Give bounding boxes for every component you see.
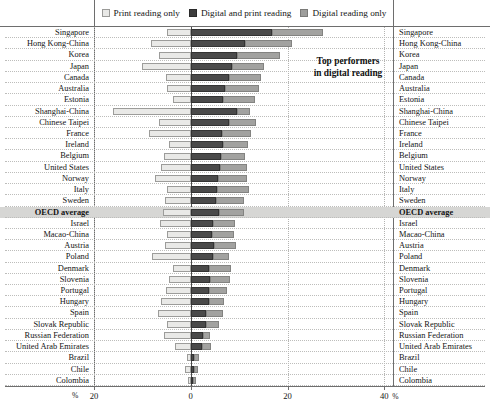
bar-segment-print-only[interactable] bbox=[149, 130, 191, 137]
bar-segment-digital-only[interactable] bbox=[194, 366, 198, 373]
bar-segment-digital-and-print[interactable] bbox=[191, 74, 229, 81]
chart-row[interactable]: IrelandIreland bbox=[0, 139, 490, 150]
bar-segment-print-only[interactable] bbox=[175, 343, 190, 350]
bar-segment-print-only[interactable] bbox=[161, 298, 191, 305]
bar-segment-digital-only[interactable] bbox=[232, 63, 263, 70]
bar-segment-print-only[interactable] bbox=[163, 209, 191, 216]
bar-segment-digital-only[interactable] bbox=[237, 108, 250, 115]
chart-row[interactable]: ChileChile bbox=[0, 364, 490, 375]
bar-segment-digital-only[interactable] bbox=[217, 186, 249, 193]
bar-segment-print-only[interactable] bbox=[165, 242, 191, 249]
bar-segment-digital-only[interactable] bbox=[206, 310, 222, 317]
chart-row[interactable]: AustraliaAustralia bbox=[0, 83, 490, 94]
chart-row[interactable]: United Arab EmiratesUnited Arab Emirates bbox=[0, 341, 490, 352]
bar-segment-print-only[interactable] bbox=[151, 40, 191, 47]
bar-segment-digital-and-print[interactable] bbox=[191, 332, 204, 339]
bar-segment-digital-and-print[interactable] bbox=[191, 186, 217, 193]
bar-segment-digital-and-print[interactable] bbox=[191, 52, 237, 59]
bar-segment-print-only[interactable] bbox=[161, 164, 191, 171]
chart-row[interactable]: IsraelIsrael bbox=[0, 218, 490, 229]
bar-segment-digital-only[interactable] bbox=[203, 332, 210, 339]
bar-segment-digital-only[interactable] bbox=[209, 287, 226, 294]
chart-row[interactable]: NorwayNorway bbox=[0, 173, 490, 184]
chart-row[interactable]: BrazilBrazil bbox=[0, 352, 490, 363]
bar-segment-print-only[interactable] bbox=[167, 321, 191, 328]
bar-segment-digital-only[interactable] bbox=[216, 197, 244, 204]
chart-row[interactable]: CanadaCanada bbox=[0, 72, 490, 83]
bar-segment-digital-only[interactable] bbox=[210, 276, 230, 283]
bar-segment-digital-only[interactable] bbox=[193, 377, 195, 384]
chart-row[interactable]: Macao-ChinaMacao-China bbox=[0, 229, 490, 240]
chart-row[interactable]: PortugalPortugal bbox=[0, 285, 490, 296]
bar-segment-digital-only[interactable] bbox=[225, 85, 260, 92]
bar-segment-digital-only[interactable] bbox=[222, 130, 251, 137]
bar-segment-digital-and-print[interactable] bbox=[191, 153, 221, 160]
bar-segment-print-only[interactable] bbox=[159, 119, 191, 126]
bar-segment-digital-only[interactable] bbox=[206, 321, 219, 328]
chart-row[interactable]: OECD averageOECD average bbox=[0, 207, 490, 218]
bar-segment-digital-and-print[interactable] bbox=[191, 265, 209, 272]
bar-segment-digital-and-print[interactable] bbox=[191, 231, 212, 238]
bar-segment-digital-and-print[interactable] bbox=[191, 40, 245, 47]
bar-segment-digital-and-print[interactable] bbox=[191, 141, 223, 148]
chart-row[interactable]: SpainSpain bbox=[0, 307, 490, 318]
bar-segment-digital-only[interactable] bbox=[209, 298, 224, 305]
bar-segment-print-only[interactable] bbox=[166, 74, 191, 81]
chart-row[interactable]: Shanghai-ChinaShanghai-China bbox=[0, 106, 490, 117]
chart-row[interactable]: Slovak RepublicSlovak Republic bbox=[0, 319, 490, 330]
bar-segment-digital-and-print[interactable] bbox=[191, 130, 222, 137]
chart-row[interactable]: Russian FederationRussian Federation bbox=[0, 330, 490, 341]
bar-segment-digital-only[interactable] bbox=[223, 141, 248, 148]
bar-segment-print-only[interactable] bbox=[155, 175, 191, 182]
chart-row[interactable]: DenmarkDenmark bbox=[0, 263, 490, 274]
bar-segment-digital-only[interactable] bbox=[272, 29, 323, 36]
bar-segment-digital-and-print[interactable] bbox=[191, 164, 220, 171]
chart-row[interactable]: ColombiaColombia bbox=[0, 375, 490, 386]
chart-row[interactable]: ItalyItaly bbox=[0, 184, 490, 195]
bar-segment-digital-only[interactable] bbox=[220, 164, 247, 171]
chart-row[interactable]: United StatesUnited States bbox=[0, 162, 490, 173]
chart-row[interactable]: HungaryHungary bbox=[0, 296, 490, 307]
bar-segment-digital-only[interactable] bbox=[209, 265, 231, 272]
chart-row[interactable]: Chinese TaipeiChinese Taipei bbox=[0, 117, 490, 128]
chart-row[interactable]: FranceFrance bbox=[0, 128, 490, 139]
bar-segment-digital-only[interactable] bbox=[214, 242, 236, 249]
chart-row[interactable]: EstoniaEstonia bbox=[0, 94, 490, 105]
bar-segment-digital-and-print[interactable] bbox=[191, 96, 223, 103]
bar-segment-digital-only[interactable] bbox=[229, 74, 262, 81]
bar-segment-print-only[interactable] bbox=[165, 197, 191, 204]
bar-segment-print-only[interactable] bbox=[173, 96, 190, 103]
bar-segment-print-only[interactable] bbox=[167, 186, 191, 193]
bar-segment-digital-only[interactable] bbox=[237, 52, 281, 59]
bar-segment-digital-only[interactable] bbox=[229, 119, 255, 126]
bar-segment-digital-and-print[interactable] bbox=[191, 63, 233, 70]
bar-segment-print-only[interactable] bbox=[164, 153, 191, 160]
bar-segment-digital-only[interactable] bbox=[221, 153, 245, 160]
bar-segment-digital-and-print[interactable] bbox=[191, 197, 216, 204]
chart-row[interactable]: JapanJapan bbox=[0, 61, 490, 72]
bar-segment-digital-only[interactable] bbox=[213, 220, 235, 227]
bar-segment-print-only[interactable] bbox=[167, 231, 191, 238]
bar-segment-digital-and-print[interactable] bbox=[191, 310, 206, 317]
bar-segment-print-only[interactable] bbox=[152, 253, 191, 260]
chart-row[interactable]: KoreaKorea bbox=[0, 49, 490, 60]
bar-segment-print-only[interactable] bbox=[159, 52, 190, 59]
bar-segment-digital-and-print[interactable] bbox=[191, 175, 218, 182]
bar-segment-print-only[interactable] bbox=[158, 310, 191, 317]
bar-segment-digital-only[interactable] bbox=[213, 253, 229, 260]
bar-segment-digital-and-print[interactable] bbox=[191, 298, 209, 305]
bar-segment-digital-and-print[interactable] bbox=[191, 242, 214, 249]
bar-segment-print-only[interactable] bbox=[173, 265, 190, 272]
bar-segment-digital-and-print[interactable] bbox=[191, 209, 219, 216]
bar-segment-print-only[interactable] bbox=[160, 220, 191, 227]
chart-row[interactable]: BelgiumBelgium bbox=[0, 150, 490, 161]
chart-row[interactable]: PolandPoland bbox=[0, 251, 490, 262]
bar-segment-print-only[interactable] bbox=[167, 29, 191, 36]
bar-segment-digital-and-print[interactable] bbox=[191, 220, 213, 227]
bar-segment-digital-and-print[interactable] bbox=[191, 343, 203, 350]
bar-segment-print-only[interactable] bbox=[142, 63, 190, 70]
bar-segment-digital-only[interactable] bbox=[245, 40, 292, 47]
bar-segment-digital-only[interactable] bbox=[194, 354, 200, 361]
bar-segment-digital-only[interactable] bbox=[202, 343, 211, 350]
bar-segment-digital-only[interactable] bbox=[218, 175, 247, 182]
